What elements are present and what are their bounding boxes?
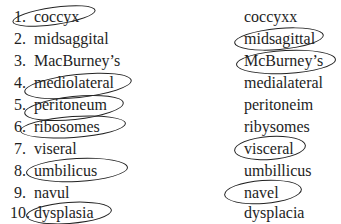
word-option: visceral	[244, 138, 294, 160]
word-option: navel	[244, 182, 279, 204]
list-item: 6.ribosomes	[14, 116, 100, 138]
item-number: 2.	[14, 28, 34, 50]
list-item: McBurney’s	[244, 50, 323, 72]
word-option: coccyx	[34, 6, 79, 28]
list-item: 5.peritoneum	[14, 94, 107, 116]
item-number: 6.	[14, 116, 34, 138]
word-option: umbilicus	[34, 160, 97, 182]
list-item: 8.umbilicus	[14, 160, 97, 182]
word-text: navul	[34, 184, 70, 201]
word-text: navel	[244, 184, 279, 201]
item-number: 4.	[14, 72, 34, 94]
item-number: 8.	[14, 160, 34, 182]
list-item: medialateral	[244, 72, 323, 94]
word-text: coccyxx	[244, 8, 297, 25]
word-text: peritoneum	[34, 96, 107, 113]
word-option: ribosomes	[34, 116, 100, 138]
word-option: mediolateral	[34, 72, 114, 94]
word-text: viseral	[34, 140, 77, 157]
word-option: medialateral	[244, 72, 323, 94]
item-number: 3.	[14, 50, 34, 72]
list-item: 4.mediolateral	[14, 72, 114, 94]
word-text: midsagittal	[244, 30, 315, 47]
word-option: viseral	[34, 138, 77, 160]
word-text: coccyx	[34, 8, 79, 25]
list-item: visceral	[244, 138, 294, 160]
word-option: midsaggital	[34, 28, 109, 50]
word-option: dysplacia	[244, 202, 304, 224]
word-text: midsaggital	[34, 30, 109, 47]
word-text: peritoneim	[244, 96, 313, 113]
list-item: 9.navul	[14, 182, 70, 204]
list-item: 2.midsaggital	[14, 28, 109, 50]
word-text: visceral	[244, 140, 294, 157]
list-item: coccyxx	[244, 6, 297, 28]
word-text: MacBurney’s	[34, 52, 120, 69]
list-item: ribysomes	[244, 116, 310, 138]
item-number: 7.	[14, 138, 34, 160]
item-number: 10.	[10, 202, 34, 224]
list-item: 1.coccyx	[14, 6, 79, 28]
word-text: umbilicus	[34, 162, 97, 179]
word-option: peritoneim	[244, 94, 313, 116]
word-option: peritoneum	[34, 94, 107, 116]
word-option: midsagittal	[244, 28, 315, 50]
list-item: peritoneim	[244, 94, 313, 116]
word-text: ribosomes	[34, 118, 100, 135]
word-option: navul	[34, 182, 70, 204]
item-number: 9.	[14, 182, 34, 204]
word-option: ribysomes	[244, 116, 310, 138]
word-text: McBurney’s	[244, 52, 323, 69]
list-item: 7.viseral	[14, 138, 77, 160]
list-item: 10.dysplasia	[10, 202, 94, 224]
item-number: 5.	[14, 94, 34, 116]
word-option: coccyxx	[244, 6, 297, 28]
word-text: medialateral	[244, 74, 323, 91]
word-option: McBurney’s	[244, 50, 323, 72]
word-text: umbillicus	[244, 162, 312, 179]
word-text: ribysomes	[244, 118, 310, 135]
word-text: mediolateral	[34, 74, 114, 91]
word-option: MacBurney’s	[34, 50, 120, 72]
word-option: dysplasia	[34, 202, 94, 224]
word-text: dysplacia	[244, 204, 304, 221]
list-item: navel	[244, 182, 279, 204]
word-option: umbillicus	[244, 160, 312, 182]
item-number: 1.	[14, 6, 34, 28]
list-item: dysplacia	[244, 202, 304, 224]
word-text: dysplasia	[34, 204, 94, 221]
list-item: 3.MacBurney’s	[14, 50, 120, 72]
list-item: midsagittal	[244, 28, 315, 50]
list-item: umbillicus	[244, 160, 312, 182]
